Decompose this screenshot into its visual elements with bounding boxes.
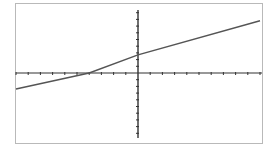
line-plot xyxy=(0,0,271,147)
